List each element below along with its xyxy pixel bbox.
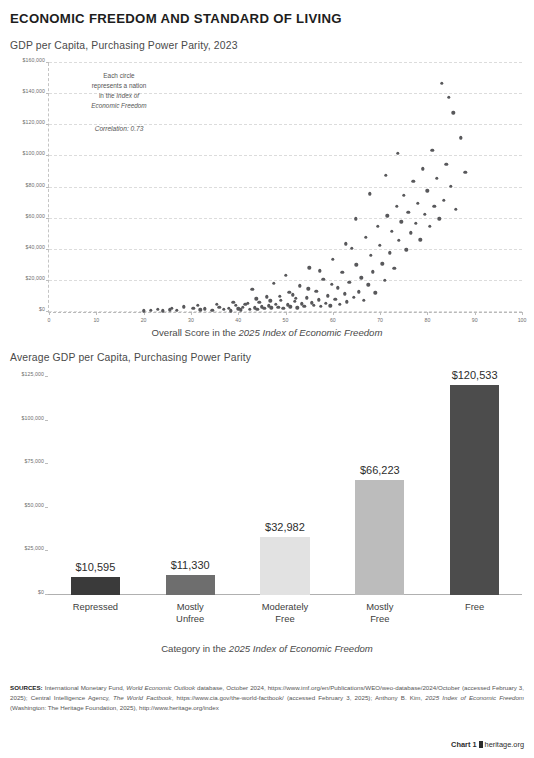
scatter-point xyxy=(348,280,351,283)
scatter-point xyxy=(294,297,297,300)
bar-y-tickmark xyxy=(45,420,48,421)
bar-y-tick-label: $50,000 xyxy=(25,502,44,508)
bar-y-tickmark xyxy=(45,376,48,377)
correlation-annotation: Correlation: 0.73 xyxy=(64,125,174,132)
scatter-x-tickmark xyxy=(286,312,287,315)
bar-rect[interactable] xyxy=(166,575,215,595)
heritage-site-label: heritage.org xyxy=(485,740,524,749)
scatter-point xyxy=(378,243,381,246)
scatter-y-tickmark xyxy=(46,155,49,156)
bar-category-label: MostlyUnfree xyxy=(148,601,233,625)
bar-category-label: Free xyxy=(432,601,517,613)
scatter-point xyxy=(281,306,284,309)
bar-category-label-line: Free xyxy=(275,613,294,624)
scatter-point xyxy=(397,239,400,242)
bar-column[interactable]: $120,533Free xyxy=(450,385,499,595)
scatter-x-tick-label: 100 xyxy=(518,317,527,323)
bar-y-tick-label: $100,000 xyxy=(22,415,44,421)
scatter-point xyxy=(362,298,365,301)
scatter-x-tickmark xyxy=(522,312,523,315)
scatter-point xyxy=(333,298,336,301)
scatter-x-tick-label: 70 xyxy=(377,317,383,323)
scatter-point xyxy=(254,297,257,300)
scatter-point xyxy=(338,302,341,305)
bar-category-label-line: Moderately xyxy=(262,601,308,612)
scatter-y-tick-label: $60,000 xyxy=(26,213,45,219)
scatter-x-tickmark xyxy=(191,312,192,315)
bar-column[interactable]: $10,595Repressed xyxy=(71,577,120,595)
scatter-point xyxy=(388,251,391,254)
scatter-point xyxy=(284,274,287,277)
scatter-y-tick-label: $140,000 xyxy=(23,88,45,94)
scatter-point xyxy=(393,267,396,270)
scatter-point xyxy=(419,238,422,241)
scatter-point xyxy=(312,304,315,307)
bar-x-axis-label-prefix: Category in the xyxy=(161,643,229,654)
scatter-y-gridline xyxy=(49,62,522,63)
annotation-line-3-italic: Index of xyxy=(116,92,139,99)
scatter-point xyxy=(336,286,339,289)
scatter-point xyxy=(381,262,384,265)
bar-y-tick-label: $0 xyxy=(38,589,44,595)
bar-y-tickmark xyxy=(45,594,48,595)
scatter-x-tick-label: 10 xyxy=(93,317,99,323)
scatter-point xyxy=(278,294,281,297)
scatter-x-tick-label: 0 xyxy=(48,317,51,323)
scatter-point xyxy=(218,305,221,308)
scatter-point xyxy=(244,303,247,306)
scatter-point xyxy=(317,298,320,301)
scatter-point xyxy=(374,291,377,294)
scatter-point xyxy=(376,225,379,228)
scatter-point xyxy=(367,283,370,286)
scatter-point xyxy=(409,231,412,234)
sources-italic-2: The World Factbook xyxy=(113,694,172,701)
bar-column[interactable]: $66,223MostlyFree xyxy=(355,480,404,595)
annotation-line-2: represents a nation xyxy=(92,82,147,89)
scatter-point xyxy=(277,306,280,309)
scatter-point xyxy=(196,303,199,306)
bar-chart-title: Average GDP per Capita, Purchasing Power… xyxy=(10,352,526,363)
sources-label: SOURCES: xyxy=(10,684,43,691)
bar-column[interactable]: $11,330MostlyUnfree xyxy=(166,575,215,595)
scatter-point xyxy=(368,192,371,195)
scatter-y-gridline xyxy=(49,218,522,219)
scatter-point xyxy=(404,248,407,251)
scatter-y-tickmark xyxy=(46,93,49,94)
scatter-x-axis-label-prefix: Overall Score in the xyxy=(152,327,239,338)
bar-rect[interactable] xyxy=(355,480,404,595)
scatter-point xyxy=(414,222,417,225)
sources-part-3: , https://www.cia.gov/the-world-factbook… xyxy=(172,694,426,701)
annotation-line-3: in the xyxy=(99,92,116,99)
scatter-x-tick-label: 40 xyxy=(235,317,241,323)
sources-part-4: (Washington: The Heritage Foundation, 20… xyxy=(10,704,219,711)
scatter-x-axis-label-italic: 2025 Index of Economic Freedom xyxy=(238,327,382,338)
scatter-point xyxy=(182,305,185,308)
scatter-x-tickmark xyxy=(475,312,476,315)
scatter-point xyxy=(464,170,467,173)
sources-note: SOURCES: International Monetary Fund, Wo… xyxy=(10,683,524,713)
page-title: ECONOMIC FREEDOM AND STANDARD OF LIVING xyxy=(10,11,526,26)
scatter-y-gridline xyxy=(49,155,522,156)
scatter-point xyxy=(293,300,296,303)
scatter-point xyxy=(331,257,334,260)
scatter-x-tickmark xyxy=(380,312,381,315)
scatter-y-tick-label: $120,000 xyxy=(23,119,45,125)
scatter-point xyxy=(289,305,292,308)
bar-rect[interactable] xyxy=(450,385,499,595)
bar-column[interactable]: $32,982ModeratelyFree xyxy=(260,537,309,595)
bar-y-tick-label: $75,000 xyxy=(25,458,44,464)
scatter-point xyxy=(251,288,254,291)
bar-category-label: MostlyFree xyxy=(337,601,422,625)
scatter-point xyxy=(329,304,332,307)
bar-rect[interactable] xyxy=(260,537,309,595)
scatter-point xyxy=(402,194,405,197)
bar-rect[interactable] xyxy=(71,577,120,595)
scatter-chart: $0$20,000$40,000$60,000$80,000$100,000$1… xyxy=(8,57,526,325)
bar-y-tick-label: $25,000 xyxy=(25,545,44,551)
scatter-point xyxy=(383,278,386,281)
scatter-point xyxy=(435,176,438,179)
scatter-point xyxy=(395,204,398,207)
scatter-point xyxy=(305,296,308,299)
scatter-y-tickmark xyxy=(46,280,49,281)
scatter-point xyxy=(355,263,358,266)
